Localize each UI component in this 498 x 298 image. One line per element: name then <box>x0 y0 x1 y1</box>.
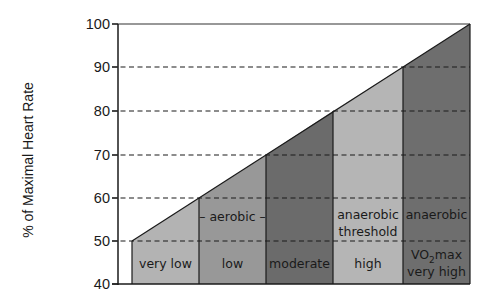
y-tick-100: 100 <box>86 16 110 32</box>
y-tick-70: 70 <box>94 147 110 163</box>
group-label-anaerobic: anaerobic <box>406 207 468 222</box>
zone-label-moderate: moderate <box>269 256 330 271</box>
zone-label-very-high: very high <box>407 264 466 279</box>
y-tick-50: 50 <box>94 233 110 249</box>
y-tick-marks <box>112 24 118 284</box>
group-label-aerobic: – aerobic – <box>199 209 266 224</box>
heart-rate-zone-chart: 100 90 80 70 60 50 40 % of Maximal Heart… <box>0 0 498 298</box>
y-tick-90: 90 <box>94 59 110 75</box>
group-label-anaerobic-threshold-2: threshold <box>339 224 398 239</box>
zone-label-high: high <box>354 256 381 271</box>
y-tick-60: 60 <box>94 190 110 206</box>
y-tick-40: 40 <box>94 276 110 292</box>
zone-label-very-low: very low <box>139 256 192 271</box>
zone-very-high-bar <box>403 24 470 284</box>
zone-high-bar <box>333 67 403 284</box>
group-label-anaerobic-threshold-1: anaerobic <box>337 207 399 222</box>
y-tick-80: 80 <box>94 103 110 119</box>
zone-label-low: low <box>222 256 243 271</box>
y-axis-label: % of Maximal Heart Rate <box>20 82 36 238</box>
